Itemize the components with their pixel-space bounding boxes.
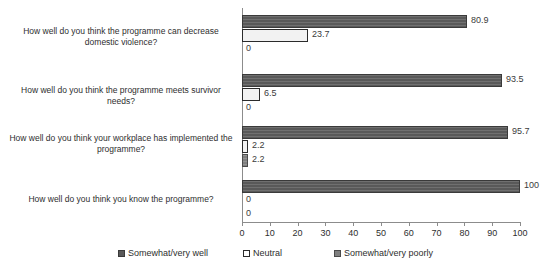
bar-value-label: 80.9 [471, 14, 489, 27]
plot-area: 80.9 23.7 0 93.5 6.5 0 [242, 8, 520, 222]
bar-group-0: 80.9 23.7 0 [242, 15, 520, 57]
bar-value-label: 0 [246, 42, 251, 55]
bar-value-label: 2.2 [252, 153, 265, 166]
bar-row: 80.9 [242, 15, 520, 28]
legend-swatch-icon [118, 250, 125, 257]
category-label-2: How well do you think your workplace has… [6, 133, 236, 155]
bar-group-2: 95.7 2.2 2.2 [242, 126, 520, 168]
x-axis-tick-label: 80 [452, 228, 476, 238]
bar-row: 93.5 [242, 74, 520, 87]
bar-series-1 [242, 140, 248, 153]
x-axis-tick-label: 20 [286, 228, 310, 238]
chart-legend: Somewhat/very well Neutral Somewhat/very… [0, 247, 554, 263]
bar-series-0 [242, 126, 508, 139]
bar-value-label: 100 [524, 179, 539, 192]
legend-swatch-icon [243, 250, 250, 257]
bar-value-label: 0 [246, 101, 251, 114]
bar-value-label: 23.7 [312, 28, 330, 41]
x-axis-tick [325, 222, 326, 226]
legend-label: Neutral [253, 248, 282, 258]
legend-swatch-icon [334, 250, 341, 257]
legend-item-0: Somewhat/very well [118, 248, 208, 258]
x-axis-tick [437, 222, 438, 226]
x-axis-tick-label: 70 [425, 228, 449, 238]
bar-series-1 [242, 88, 260, 101]
category-label-3: How well do you think you know the progr… [6, 194, 236, 205]
x-axis-tick [353, 222, 354, 226]
legend-label: Somewhat/very well [128, 248, 208, 258]
bar-row: 0 [242, 208, 520, 221]
x-axis-tick [492, 222, 493, 226]
legend-label: Somewhat/very poorly [344, 248, 433, 258]
bar-row: 2.2 [242, 140, 520, 153]
x-axis-tick-label: 10 [258, 228, 282, 238]
bar-series-0 [242, 15, 467, 28]
legend-item-1: Neutral [243, 248, 282, 258]
bar-row: 0 [242, 102, 520, 115]
bar-row: 95.7 [242, 126, 520, 139]
x-axis-tick-label: 0 [230, 228, 254, 238]
category-label-1: How well do you think the programme meet… [6, 85, 236, 107]
bar-row: 0 [242, 194, 520, 207]
bar-series-0 [242, 74, 502, 87]
x-axis-tick-label: 60 [397, 228, 421, 238]
x-axis-tick [381, 222, 382, 226]
x-axis-tick-label: 50 [369, 228, 393, 238]
bar-series-1 [242, 29, 308, 42]
x-axis-tick-label: 100 [508, 228, 532, 238]
category-label-0: How well do you think the programme can … [6, 26, 236, 48]
bar-value-label: 6.5 [264, 87, 277, 100]
bar-value-label: 95.7 [512, 125, 530, 138]
x-axis-tick [464, 222, 465, 226]
x-axis-tick [242, 222, 243, 226]
bar-series-0 [242, 180, 520, 193]
bar-value-label: 2.2 [252, 139, 265, 152]
bar-row: 0 [242, 43, 520, 56]
x-axis-tick [409, 222, 410, 226]
bar-value-label: 93.5 [506, 73, 524, 86]
x-axis-tick-label: 40 [341, 228, 365, 238]
bar-group-1: 93.5 6.5 0 [242, 74, 520, 116]
x-axis-tick [270, 222, 271, 226]
bar-value-label: 0 [246, 207, 251, 220]
bar-chart: How well do you think the programme can … [0, 0, 554, 277]
bar-series-2 [242, 154, 248, 167]
legend-item-2: Somewhat/very poorly [334, 248, 433, 258]
x-axis-tick [298, 222, 299, 226]
bar-row: 100 [242, 180, 520, 193]
x-axis-tick [520, 222, 521, 226]
bar-value-label: 0 [246, 193, 251, 206]
x-axis-tick-label: 30 [313, 228, 337, 238]
bar-group-3: 100 0 0 [242, 180, 520, 222]
bar-row: 6.5 [242, 88, 520, 101]
x-axis-tick-label: 90 [480, 228, 504, 238]
bar-row: 23.7 [242, 29, 520, 42]
bar-row: 2.2 [242, 154, 520, 167]
